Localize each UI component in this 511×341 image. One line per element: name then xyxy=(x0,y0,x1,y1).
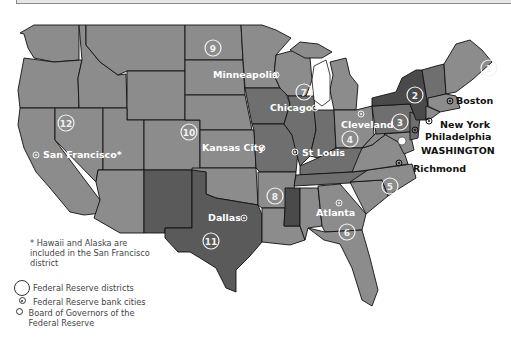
city-chicago: Chicago xyxy=(270,102,318,113)
lake-michigan xyxy=(312,60,330,106)
city-label: New York xyxy=(440,119,491,130)
footnote: * Hawaii and Alaska are included in the … xyxy=(30,238,150,268)
legend-districts: Federal Reserve districts xyxy=(14,280,134,296)
state-maine xyxy=(444,40,492,94)
legend-label: Board of Governors of the Federal Reserv… xyxy=(29,308,154,328)
city-label: Chicago xyxy=(270,102,313,113)
state-washington xyxy=(20,25,79,62)
district-number: 1 xyxy=(486,64,492,74)
district-number: 11 xyxy=(205,237,218,247)
city-label: Cleveland xyxy=(341,119,394,130)
district-number: 2 xyxy=(412,91,418,101)
large-circle-icon xyxy=(14,280,30,296)
state-mississippi xyxy=(284,188,300,226)
state-michigan xyxy=(330,58,358,110)
city-minneapolis: Minneapolis xyxy=(213,69,279,80)
state-oregon xyxy=(18,58,82,108)
state-shapes xyxy=(18,25,200,233)
state-florida xyxy=(308,228,378,306)
district-number: 4 xyxy=(347,135,353,145)
district-number: 7 xyxy=(301,88,307,98)
state-wyoming xyxy=(127,71,185,120)
legend-label: Federal Reserve bank cities xyxy=(33,297,146,307)
legend-board: Board of Governors of the Federal Reserv… xyxy=(14,308,154,328)
dotted-circle-icon xyxy=(19,297,26,304)
city-label: Minneapolis xyxy=(213,69,278,80)
city-label: WASHINGTON xyxy=(421,145,495,156)
city-label: Kansas City xyxy=(202,142,265,153)
legend-label: Federal Reserve districts xyxy=(33,283,134,293)
district-number: 5 xyxy=(387,182,393,192)
city-washington: WASHINGTON xyxy=(421,145,495,156)
legend-bank-cities: Federal Reserve bank cities xyxy=(14,297,146,307)
city-label: San Francisco* xyxy=(43,149,122,160)
city-label: Atlanta xyxy=(316,207,355,218)
city-label: Philadelphia xyxy=(425,131,491,142)
district-number: 10 xyxy=(183,128,196,138)
state-new-mexico xyxy=(144,170,192,233)
city-label: Richmond xyxy=(413,163,466,174)
district-number: 8 xyxy=(272,192,278,202)
district-number: 3 xyxy=(397,118,403,128)
city-san-francisco: San Francisco* xyxy=(33,149,122,160)
city-new-york: New York xyxy=(426,118,491,130)
district-number: 9 xyxy=(210,44,216,54)
district-number: 12 xyxy=(60,119,73,129)
city-label: Boston xyxy=(456,95,493,106)
board-of-governors-marker xyxy=(398,137,406,145)
district-number: 6 xyxy=(344,228,350,238)
state-north-dakota xyxy=(185,25,243,60)
city-kansas-city: Kansas City xyxy=(202,142,265,153)
state-arizona xyxy=(94,170,144,233)
city-label: St Louis xyxy=(302,147,345,158)
city-label: Dallas xyxy=(208,212,241,223)
small-circle-icon xyxy=(16,308,23,315)
